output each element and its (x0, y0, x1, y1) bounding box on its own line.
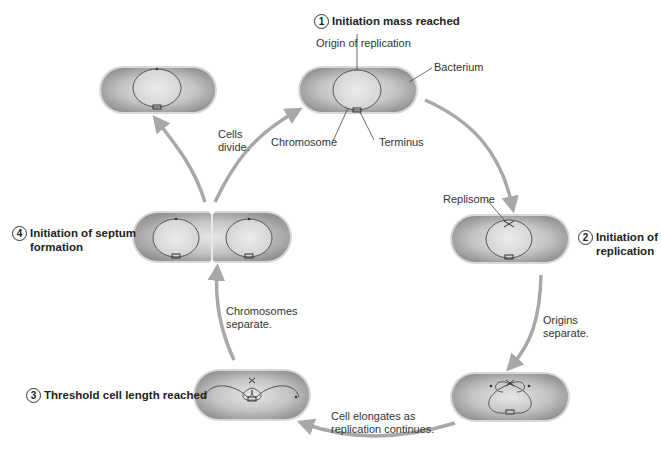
arrow-2-to-origins (512, 275, 541, 365)
arrow-divide-left (158, 122, 205, 202)
step-2-title: 2Initiation ofreplication (578, 230, 658, 258)
step-3-title: 3Threshold cell length reached (26, 388, 207, 403)
step-1-number: 1 (314, 14, 329, 29)
caption-origins-separate: Originsseparate. (543, 314, 589, 340)
cell-step2 (450, 200, 570, 264)
step-4-number: 4 (12, 226, 27, 241)
label-origin: Origin of replication (316, 37, 411, 50)
caption-chromosomes-separate: Chromosomesseparate. (226, 305, 298, 331)
label-chromosome: Chromosome (271, 136, 337, 149)
cell-step4 (132, 211, 292, 263)
step-2-number: 2 (578, 230, 593, 245)
cell-step1 (298, 34, 432, 141)
arrow-divide-right (215, 112, 295, 202)
label-bacterium: Bacterium (434, 61, 484, 74)
step-3-number: 3 (26, 388, 41, 403)
caption-cells-divide: Cellsdivide. (218, 128, 250, 154)
label-replisome: Replisome (443, 193, 495, 206)
step-1-title: 1Initiation mass reached (314, 14, 460, 29)
caption-cell-elongates: Cell elongates asreplication continues. (331, 410, 434, 436)
cell-step3 (193, 369, 311, 421)
label-terminus: Terminus (379, 136, 424, 149)
cell-origins-separated (450, 372, 570, 422)
step-4-title: 4Initiation of septumformation (12, 226, 136, 254)
arrow-1-to-2 (425, 100, 512, 205)
cell-daughter (99, 66, 217, 114)
